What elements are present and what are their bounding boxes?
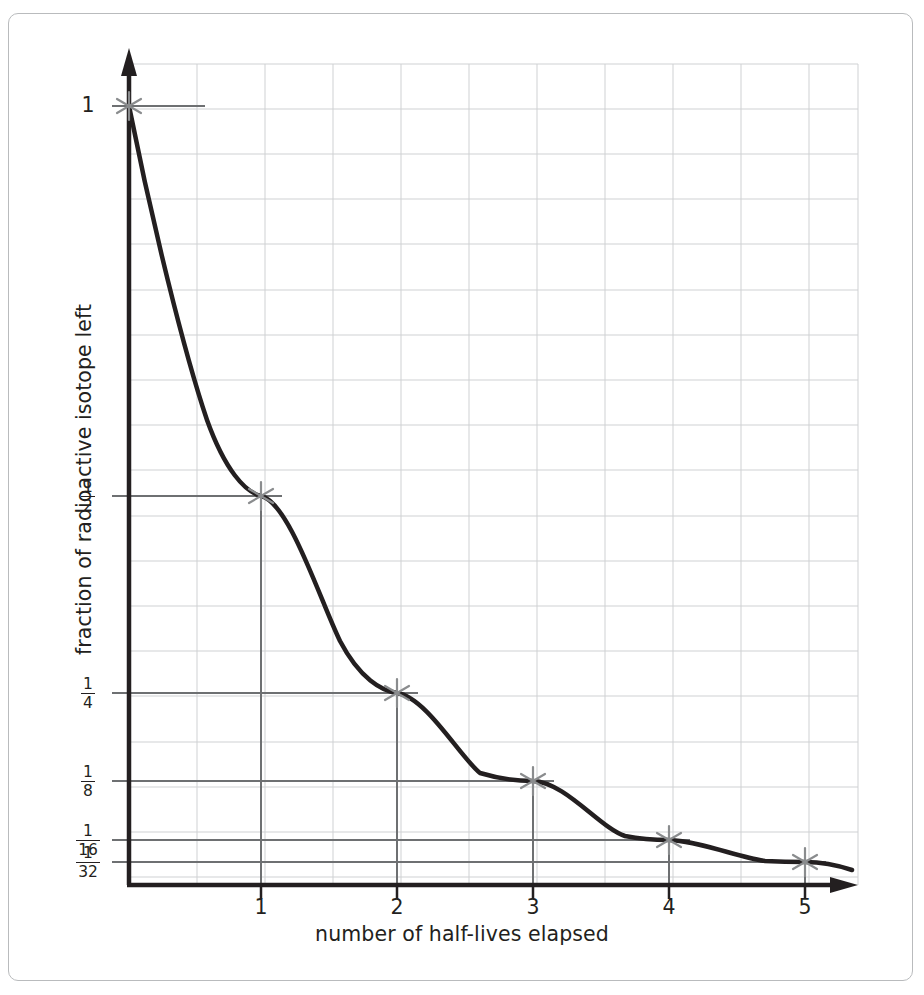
y-axis-title: fraction of radioactive isotope left — [72, 304, 96, 655]
y-tick-value: 1 — [81, 93, 94, 117]
fraction-numerator: 1 — [76, 823, 100, 841]
fraction-denominator: 4 — [81, 694, 95, 711]
y-tick-label-one-eighth: 1 8 — [68, 764, 108, 799]
x-axis-title: number of half-lives elapsed — [0, 922, 924, 946]
x-tick-label-3: 3 — [513, 895, 553, 919]
chart-gridlines — [129, 64, 858, 885]
x-tick-label-2: 2 — [377, 895, 417, 919]
y-tick-label-one-thirtysecond: 1 32 — [68, 845, 108, 880]
fraction: 1 8 — [81, 764, 95, 799]
y-axis-arrowhead — [121, 48, 137, 76]
fraction: 1 4 — [81, 676, 95, 711]
decay-curve — [129, 106, 852, 870]
y-tick-label-one-quarter: 1 4 — [68, 676, 108, 711]
fraction-denominator: 32 — [76, 863, 100, 880]
fraction-numerator: 1 — [81, 764, 95, 782]
fraction-numerator: 1 — [81, 676, 95, 694]
decay-chart — [0, 0, 924, 995]
figure-page: 1 1 2 1 4 1 8 1 16 1 32 1 2 3 4 5 — [0, 0, 924, 995]
y-tick-label-1: 1 — [68, 95, 108, 116]
x-axis-arrowhead — [830, 877, 858, 893]
fraction: 1 32 — [76, 845, 100, 880]
x-tick-label-1: 1 — [241, 895, 281, 919]
x-tick-label-5: 5 — [785, 895, 825, 919]
x-tick-label-4: 4 — [649, 895, 689, 919]
fraction-denominator: 8 — [81, 782, 95, 799]
fraction-numerator: 1 — [76, 845, 100, 863]
